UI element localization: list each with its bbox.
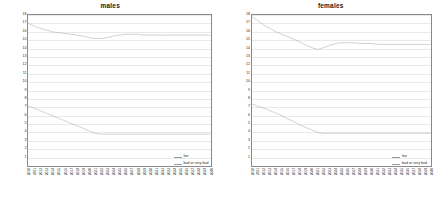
x-axis-tick-label: 2023 <box>107 168 110 175</box>
x-axis-tick-label: 2027 <box>131 168 134 175</box>
x-axis-tick-label: 2038 <box>419 168 422 175</box>
x-axis-tick-label: 2034 <box>174 168 177 175</box>
x-axis-tick-label: 2035 <box>180 168 183 175</box>
x-axis-tick-label: 2032 <box>162 168 165 175</box>
y-axis-tick-label: 7 <box>248 105 250 109</box>
x-axis-tick-label: 2024 <box>113 168 116 175</box>
x-axis-tick-label: 2018 <box>77 168 80 175</box>
x-axis-tick-label: 2036 <box>186 168 189 175</box>
series-layer <box>252 15 432 166</box>
x-axis-tick-label: 2026 <box>125 168 128 175</box>
y-axis-tick-label: 11 <box>246 72 250 76</box>
y-axis-tick-label: 13 <box>22 55 26 59</box>
x-axis-tick-label: 2029 <box>365 168 368 175</box>
y-axis-tick-label: 2 <box>24 147 26 151</box>
y-axis-tick-label: 18 <box>22 13 26 17</box>
legend-females: fair bad or very bad <box>392 155 427 166</box>
x-axis-tick-label: 2011 <box>257 168 260 175</box>
panel-title-males: males <box>0 2 221 9</box>
y-axis-tick-label: 10 <box>246 80 250 84</box>
x-axis-tick-label: 2034 <box>395 168 398 175</box>
y-axis-tick-label: 9 <box>248 89 250 93</box>
x-axis-tick-label: 2031 <box>156 168 159 175</box>
x-axis-tick-label: 2012 <box>40 168 43 175</box>
y-axis-tick-label: 4 <box>248 131 250 135</box>
x-axis-tick-label: 2019 <box>305 168 308 175</box>
legend-swatch-fair-icon <box>174 157 182 158</box>
x-axis-tick-label: 2015 <box>58 168 61 175</box>
y-axis-tick-label: 4 <box>24 131 26 135</box>
x-axis-tick-label: 2026 <box>347 168 350 175</box>
plot-area-females: 1817161514131211109876543212010201120122… <box>251 14 433 167</box>
y-axis-tick-label: 17 <box>246 22 250 26</box>
x-axis-tick-label: 2025 <box>341 168 344 175</box>
y-axis-tick-label: 16 <box>22 30 26 34</box>
x-axis-tick-label: 2018 <box>299 168 302 175</box>
legend-item-fair: fair <box>174 155 189 159</box>
y-axis-tick-label: 15 <box>246 38 250 42</box>
series-line-fair <box>252 17 432 50</box>
x-axis-tick-label: 2010 <box>252 168 255 175</box>
x-axis-tick-label: 2028 <box>138 168 141 175</box>
x-axis-tick-label: 2010 <box>28 168 31 175</box>
health-rating-figure: males Proportion of population of given … <box>0 0 441 206</box>
x-axis-tick-label: 2040 <box>431 168 434 175</box>
plot-area-males: 1817161514131211109876543212010201120122… <box>27 14 212 167</box>
x-axis-tick-label: 2037 <box>413 168 416 175</box>
y-axis-tick-label: 10 <box>22 80 26 84</box>
chart-panel-females: females Proportion of population of give… <box>221 0 441 206</box>
y-axis-tick-label: 7 <box>24 105 26 109</box>
x-axis-tick-label: 2022 <box>323 168 326 175</box>
x-axis-tick-label: 2020 <box>311 168 314 175</box>
y-axis-tick-label: 1 <box>24 156 26 160</box>
x-axis-tick-label: 2015 <box>281 168 284 175</box>
x-axis-tick-label: 2028 <box>359 168 362 175</box>
y-axis-tick-label: 13 <box>246 55 250 59</box>
x-axis-tick-label: 2038 <box>198 168 201 175</box>
legend-label-bad-or-very-bad: bad or very bad <box>402 162 427 166</box>
x-axis-tick-label: 2017 <box>71 168 74 175</box>
x-axis-tick-label: 2029 <box>144 168 147 175</box>
y-axis-tick-label: 5 <box>248 122 250 126</box>
x-axis-tick-label: 2036 <box>407 168 410 175</box>
y-axis-tick-label: 17 <box>22 22 26 26</box>
x-axis-tick-label: 2016 <box>65 168 68 175</box>
x-axis-tick-label: 2014 <box>52 168 55 175</box>
x-axis-tick-label: 2030 <box>371 168 374 175</box>
chart-panel-males: males Proportion of population of given … <box>0 0 221 206</box>
y-axis-tick-label: 11 <box>23 72 27 76</box>
series-layer <box>28 15 211 166</box>
y-axis-tick-label: 12 <box>246 64 250 68</box>
x-axis-tick-label: 2013 <box>46 168 49 175</box>
x-axis-tick-label: 2019 <box>83 168 86 175</box>
x-axis-tick-label: 2027 <box>353 168 356 175</box>
x-axis-tick-label: 2025 <box>119 168 122 175</box>
y-axis-tick-label: 6 <box>24 114 26 118</box>
y-axis-tick-label: 3 <box>248 139 250 143</box>
series-line-bad-or-very-bad <box>252 104 432 133</box>
y-axis-tick-label: 12 <box>22 64 26 68</box>
legend-label-bad-or-very-bad: bad or very bad <box>184 162 209 166</box>
legend-label-fair: fair <box>184 155 189 159</box>
y-axis-tick-label: 8 <box>248 97 250 101</box>
y-axis-tick-label: 2 <box>248 147 250 151</box>
x-axis-tick-label: 2032 <box>383 168 386 175</box>
y-axis-tick-label: 1 <box>248 156 250 160</box>
y-axis-tick-label: 14 <box>22 47 26 51</box>
legend-item-fair: fair <box>392 155 407 159</box>
x-axis-tick-label: 2016 <box>287 168 290 175</box>
y-axis-tick-label: 8 <box>24 97 26 101</box>
x-axis-tick-label: 2013 <box>269 168 272 175</box>
legend-item-bad-or-very-bad: bad or very bad <box>174 162 209 166</box>
series-line-fair <box>28 23 211 38</box>
legend-label-fair: fair <box>402 155 407 159</box>
x-axis-tick-label: 2023 <box>329 168 332 175</box>
legend-swatch-fair-icon <box>392 157 400 158</box>
x-axis-tick-label: 2020 <box>89 168 92 175</box>
x-axis-tick-label: 2030 <box>150 168 153 175</box>
x-axis-tick-label: 2011 <box>34 168 37 175</box>
x-axis-tick-label: 2033 <box>389 168 392 175</box>
x-axis-tick-label: 2012 <box>263 168 266 175</box>
y-axis-tick-label: 15 <box>22 38 26 42</box>
y-axis-tick-label: 14 <box>246 47 250 51</box>
